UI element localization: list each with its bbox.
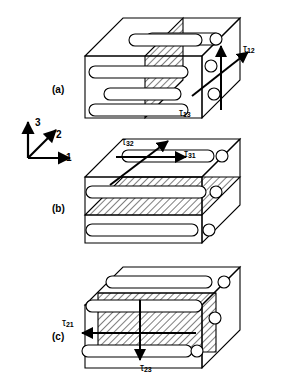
tau12-label: τ12 <box>243 43 255 54</box>
tau13-label: τ13 <box>179 107 191 118</box>
tau32-label: τ32 <box>122 136 134 147</box>
tau21-subscript: 21 <box>66 321 74 328</box>
tau31-label: τ31 <box>184 148 196 159</box>
axis-3-label: 3 <box>35 117 41 128</box>
panel-label-b: (b) <box>52 203 65 214</box>
tau21-label: τ21 <box>62 317 74 328</box>
composite-shear-figure: 3 2 1 (a) (b) (c) τ12 τ13 τ32 τ31 τ21 τ2… <box>0 0 282 392</box>
tau32-subscript: 32 <box>126 140 134 147</box>
tau31-subscript: 31 <box>188 152 196 159</box>
tau12-subscript: 12 <box>247 47 255 54</box>
tau13-subscript: 13 <box>183 111 191 118</box>
tau23-label: τ23 <box>140 362 152 373</box>
panel-label-a: (a) <box>52 84 64 95</box>
panel-label-c: (c) <box>52 331 64 342</box>
coordinate-triad <box>0 0 282 392</box>
axis-2-label: 2 <box>56 129 62 140</box>
axis-1-label: 1 <box>66 152 72 163</box>
axis-2-arrow <box>28 130 56 158</box>
tau23-subscript: 23 <box>144 366 152 373</box>
